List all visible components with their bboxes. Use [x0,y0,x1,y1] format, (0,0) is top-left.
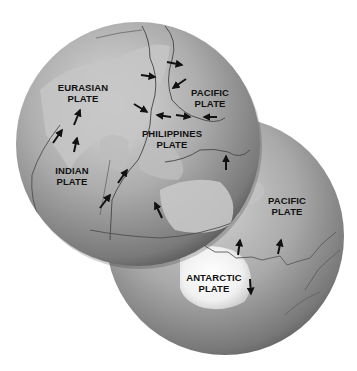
plate-label-antarctic: ANTARCTICPLATE [186,272,242,294]
plate-label-indian: INDIANPLATE [55,165,88,187]
tectonic-plates-diagram: EURASIANPLATEPACIFICPLATEPHILIPPINESPLAT… [0,0,357,371]
plate-label-pacific-north: PACIFICPLATE [191,87,229,109]
plate-label-name: PACIFIC [191,87,229,98]
globes-graphic [0,0,357,371]
plate-label-philippines: PHILIPPINESPLATE [142,128,202,150]
plate-label-name: PHILIPPINES [142,128,202,139]
plate-label-suffix: PLATE [58,93,108,104]
plate-label-suffix: PLATE [268,206,306,217]
plate-label-suffix: PLATE [142,139,202,150]
plate-label-pacific-south: PACIFICPLATE [268,195,306,217]
plate-label-name: EURASIAN [58,82,108,93]
plate-label-name: INDIAN [55,165,88,176]
asia-pacific-globe [16,22,260,266]
plate-label-suffix: PLATE [186,283,242,294]
plate-label-eurasian: EURASIANPLATE [58,82,108,104]
plate-label-name: ANTARCTIC [186,272,242,283]
plate-label-suffix: PLATE [55,176,88,187]
plate-label-suffix: PLATE [191,98,229,109]
motion-arrow-icon [250,279,251,294]
plate-label-name: PACIFIC [268,195,306,206]
